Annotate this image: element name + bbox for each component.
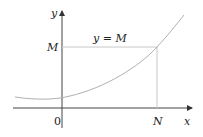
x-axis-label: x bbox=[184, 115, 191, 128]
y-tick-m: M bbox=[46, 41, 59, 54]
y-axis-label: y bbox=[50, 7, 58, 20]
origin-label: 0 bbox=[54, 115, 61, 128]
diagram: y x 0 M N y = M bbox=[0, 0, 203, 137]
line-label: y = M bbox=[92, 32, 127, 45]
function-curve bbox=[15, 15, 184, 99]
x-tick-n: N bbox=[152, 115, 163, 128]
